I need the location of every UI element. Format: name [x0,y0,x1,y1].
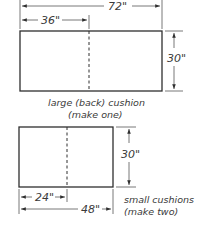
small-cushion-outline [19,127,113,187]
small-cushion-caption: small cushions [124,194,194,205]
large-half-width-label: 36" [41,14,60,27]
large-cushion-quantity: (make one) [68,109,123,120]
small-half-width-label: 24" [35,191,54,204]
small-cushion-group: 30" 24" 48" small cushions (make two) [19,127,194,217]
large-height-label: 30" [167,52,186,65]
large-width-label: 72" [108,0,127,13]
large-cushion-outline [20,31,162,91]
large-cushion-group: 72" 36" 30" large (back) cushion (make o… [20,0,186,120]
large-cushion-caption: large (back) cushion [48,97,145,108]
small-cushion-quantity: (make two) [124,206,178,217]
small-height-label: 30" [121,148,140,161]
small-width-label: 48" [81,203,100,216]
cushion-cutting-diagram: 72" 36" 30" large (back) cushion (make o… [0,0,224,243]
